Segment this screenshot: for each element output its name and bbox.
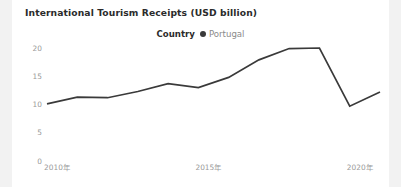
page-margin-left <box>0 0 12 187</box>
data-line-portugal <box>47 48 380 106</box>
x-axis-tick-label: 2020年 <box>347 163 374 172</box>
line-chart-svg: 05101520 2010年2015年2020年 <box>12 0 401 187</box>
y-axis: 05101520 <box>33 44 43 166</box>
y-axis-tick-label: 15 <box>33 72 43 81</box>
y-axis-tick-label: 0 <box>37 157 42 166</box>
x-axis-tick-label: 2010年 <box>44 163 71 172</box>
x-axis: 2010年2015年2020年 <box>44 163 374 172</box>
y-axis-tick-label: 20 <box>33 44 43 53</box>
y-axis-tick-label: 10 <box>33 100 43 109</box>
y-axis-tick-label: 5 <box>37 128 42 137</box>
chart-screenshot: International Tourism Receipts (USD bill… <box>0 0 401 187</box>
x-axis-tick-label: 2015年 <box>195 163 222 172</box>
plot-area: 05101520 2010年2015年2020年 <box>12 0 401 187</box>
